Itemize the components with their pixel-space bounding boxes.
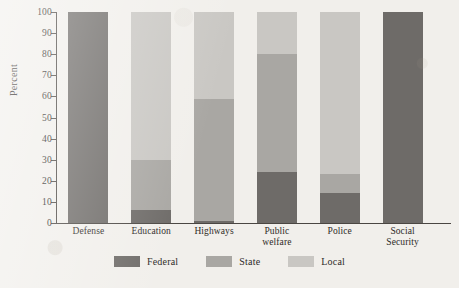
y-tick-label: 60 (42, 91, 52, 101)
x-axis-category-label-line: Education (120, 226, 183, 237)
x-axis-category-label-line: Social (371, 226, 434, 237)
legend-item-state[interactable]: State (206, 256, 260, 267)
bar-group[interactable]: Defense (57, 12, 120, 223)
bar-segment-state[interactable] (194, 99, 234, 221)
y-tick-label: 30 (42, 155, 52, 165)
legend-swatch-icon (114, 256, 140, 267)
x-axis-category-label-line: Police (308, 226, 371, 237)
bar-segment-federal[interactable] (257, 172, 297, 223)
bar-stack[interactable] (131, 12, 171, 223)
bar-segment-local[interactable] (257, 12, 297, 54)
bar-segment-federal[interactable] (383, 12, 423, 223)
x-axis-category-label-line: Security (371, 237, 434, 248)
bar-segment-state[interactable] (131, 160, 171, 211)
bar-segment-federal[interactable] (320, 193, 360, 223)
bar-group[interactable]: Police (308, 12, 371, 223)
bar-segment-local[interactable] (320, 12, 360, 174)
plot-area: 0102030405060708090100 DefenseEducationH… (56, 12, 434, 224)
legend-swatch-icon (206, 256, 232, 267)
legend-item-federal[interactable]: Federal (114, 256, 178, 267)
x-axis-category-label: Defense (57, 226, 120, 237)
x-axis-category-label: Publicwelfare (246, 226, 309, 248)
y-tick-label: 80 (42, 49, 52, 59)
legend-swatch-icon (288, 256, 314, 267)
x-axis-category-label-line: welfare (246, 237, 309, 248)
x-axis-category-label: Education (120, 226, 183, 237)
bar-group[interactable]: Publicwelfare (246, 12, 309, 223)
bar-segment-local[interactable] (194, 12, 234, 99)
y-tick-label: 100 (37, 7, 52, 17)
bar-stack[interactable] (257, 12, 297, 223)
legend-label: Local (321, 256, 345, 267)
bar-series-container: DefenseEducationHighwaysPublicwelfarePol… (57, 12, 434, 223)
y-tick-label: 50 (42, 113, 52, 123)
y-tick-label: 10 (42, 197, 52, 207)
chart-legend: FederalStateLocal (0, 256, 459, 267)
bar-segment-state[interactable] (320, 174, 360, 193)
bar-stack[interactable] (383, 12, 423, 223)
bar-segment-federal[interactable] (131, 210, 171, 223)
y-axis-title: Percent (8, 64, 19, 96)
bar-group[interactable]: Highways (183, 12, 246, 223)
x-axis-category-label-line: Defense (57, 226, 120, 237)
bar-segment-federal[interactable] (194, 221, 234, 223)
bar-group[interactable]: Education (120, 12, 183, 223)
y-tick-label: 40 (42, 134, 52, 144)
x-axis-category-label: Highways (183, 226, 246, 237)
y-tick-label: 90 (42, 28, 52, 38)
bar-stack[interactable] (68, 12, 108, 223)
bar-stack[interactable] (194, 12, 234, 223)
x-axis-category-label-line: Public (246, 226, 309, 237)
x-axis-category-label: Police (308, 226, 371, 237)
x-axis-category-label-line: Highways (183, 226, 246, 237)
y-tick-label: 0 (47, 218, 52, 228)
chart-figure: Percent 0102030405060708090100 DefenseEd… (0, 0, 459, 288)
bar-segment-federal[interactable] (68, 12, 108, 223)
bar-segment-state[interactable] (257, 54, 297, 172)
bar-segment-local[interactable] (131, 12, 171, 160)
y-tick-label: 70 (42, 70, 52, 80)
bar-stack[interactable] (320, 12, 360, 223)
bar-group[interactable]: SocialSecurity (371, 12, 434, 223)
legend-label: State (239, 256, 260, 267)
x-axis-category-label: SocialSecurity (371, 226, 434, 248)
y-tick-label: 20 (42, 176, 52, 186)
legend-item-local[interactable]: Local (288, 256, 345, 267)
x-axis-line (56, 223, 451, 224)
legend-label: Federal (147, 256, 178, 267)
